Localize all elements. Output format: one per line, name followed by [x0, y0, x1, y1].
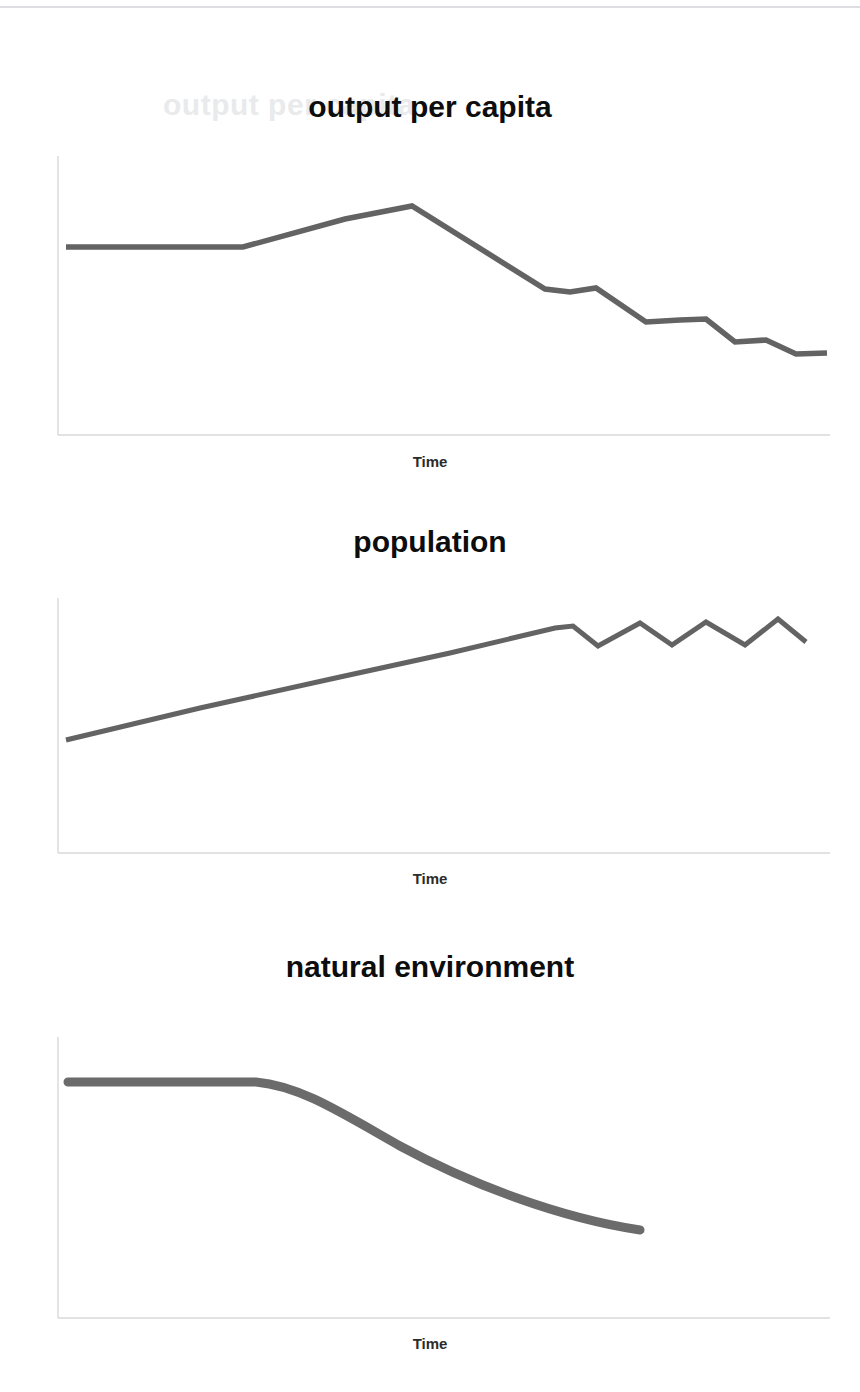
chart-output-per-capita: output per capita Time: [0, 0, 860, 490]
series-line-natural-environment: [68, 1082, 640, 1230]
x-axis-label-natural-environment: Time: [0, 1336, 860, 1351]
figure-page: output per capita output per capita Time…: [0, 0, 860, 1392]
chart-population: population Time: [0, 505, 860, 905]
chart-natural-environment: natural environment Time: [0, 930, 860, 1392]
plot-area-population: Time: [0, 505, 860, 885]
series-line-output-per-capita: [66, 206, 827, 354]
plot-area-output-per-capita: Time: [0, 0, 860, 470]
x-axis-label-output-per-capita: Time: [0, 454, 860, 469]
x-axis-label-population: Time: [0, 871, 860, 886]
plot-area-natural-environment: Time: [0, 930, 860, 1370]
series-line-population: [66, 619, 806, 740]
